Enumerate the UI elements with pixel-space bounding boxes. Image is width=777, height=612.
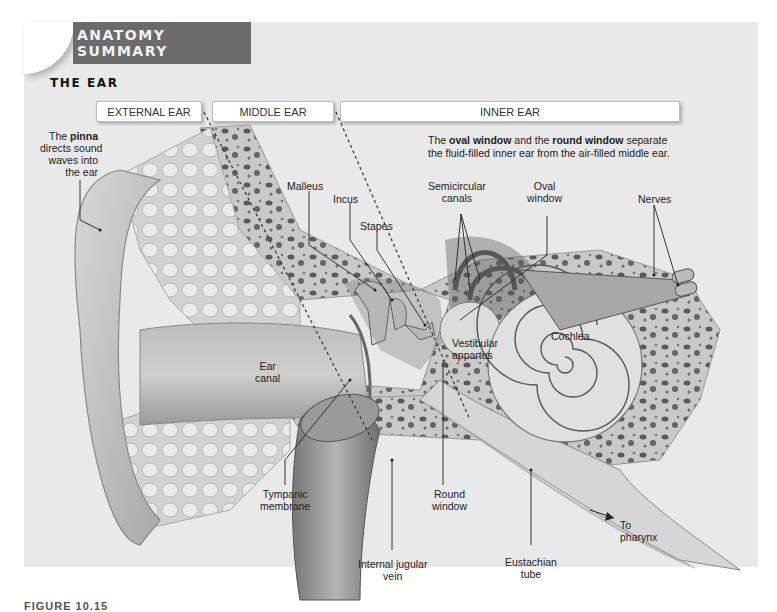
stapes-label: Stapes [360, 220, 393, 232]
pinna-text: directs sound [40, 142, 102, 154]
pinna-bold: pinna [70, 130, 98, 142]
pinna-text: waves into [48, 154, 98, 166]
label-line: window [432, 500, 467, 512]
malleus-label: Malleus [287, 180, 323, 192]
label-line: Ear [259, 360, 275, 372]
pinna-text: The [49, 130, 70, 142]
nerves-label: Nerves [638, 193, 671, 205]
label-line: vein [383, 570, 402, 582]
tympanic-membrane-label: Tympanicmembrane [260, 488, 310, 512]
label-line: canals [442, 192, 472, 204]
ear-canal-label: Earcanal [255, 360, 280, 384]
label-line: membrane [260, 500, 310, 512]
eustachian-tube-label: Eustachiantube [505, 556, 557, 580]
label-line: Oval [534, 180, 556, 192]
label-line: Internal jugular [358, 558, 427, 570]
label-line: Vestibular [452, 337, 498, 349]
pinna-text: the ear [65, 166, 98, 178]
label-line: Tympanic [263, 488, 308, 500]
label-line: pharynx [620, 531, 657, 543]
label-line: appartus [452, 349, 493, 361]
internal-jugular-vein-label: Internal jugularvein [358, 558, 427, 582]
label-line: Round [434, 488, 465, 500]
pinna-label: The pinna directs sound waves into the e… [40, 130, 98, 178]
oval-window-label: Ovalwindow [527, 180, 562, 204]
vestibular-apparatus-label: Vestibularappartus [452, 337, 498, 361]
label-line: tube [521, 568, 541, 580]
figure-caption: FIGURE 10.15 [24, 600, 108, 612]
round-window-label: Roundwindow [432, 488, 467, 512]
label-line: canal [255, 372, 280, 384]
to-pharynx-label: Topharynx [620, 519, 657, 543]
cochlea-label: Cochlea [551, 330, 590, 342]
label-line: window [527, 192, 562, 204]
label-line: Semicircular [428, 180, 486, 192]
label-line: Eustachian [505, 556, 557, 568]
incus-label: Incus [333, 193, 358, 205]
label-line: To [620, 519, 631, 531]
semicircular-canals-label: Semicircularcanals [428, 180, 486, 204]
